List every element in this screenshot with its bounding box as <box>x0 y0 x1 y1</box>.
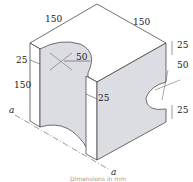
dim-mid-wall: 25 <box>98 93 110 103</box>
dim-right-top: 25 <box>177 40 189 50</box>
left-wall-face <box>30 43 40 127</box>
dim-height: 150 <box>14 80 31 90</box>
caption: Dimensions in mm <box>70 175 126 182</box>
dim-top-left: 150 <box>45 14 62 24</box>
dim-top-right: 150 <box>133 17 150 27</box>
dim-right-radius: 50 <box>177 60 189 70</box>
dim-left-wall: 25 <box>16 55 28 65</box>
dim-right-bottom: 25 <box>177 105 189 115</box>
isometric-diagram: 150 150 25 150 50 25 25 50 25 a a Dimens… <box>0 0 193 182</box>
dim-inner-radius: 50 <box>76 52 88 62</box>
mid-wall-face <box>86 76 97 160</box>
section-label-start: a <box>9 105 14 115</box>
